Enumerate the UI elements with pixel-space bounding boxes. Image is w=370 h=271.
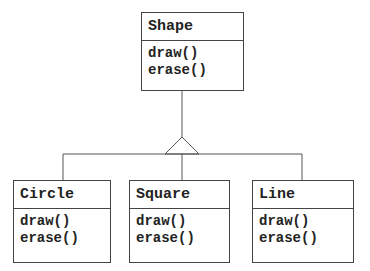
class-square: Square draw() erase()	[129, 180, 230, 263]
class-name: Square	[130, 181, 229, 209]
operation: draw()	[20, 213, 110, 230]
class-name: Shape	[142, 13, 243, 41]
generalization-triangle-icon	[165, 137, 199, 154]
operation: erase()	[20, 230, 110, 247]
operation: draw()	[259, 213, 353, 230]
uml-diagram: Shape draw() erase() Circle draw() erase…	[0, 0, 370, 271]
class-shape: Shape draw() erase()	[141, 12, 244, 91]
class-operations: draw() erase()	[253, 209, 353, 247]
operation: draw()	[148, 45, 243, 62]
class-operations: draw() erase()	[14, 209, 110, 247]
class-name: Circle	[14, 181, 110, 209]
class-line: Line draw() erase()	[252, 180, 354, 263]
operation: erase()	[136, 230, 229, 247]
class-circle: Circle draw() erase()	[13, 180, 111, 263]
operation: erase()	[259, 230, 353, 247]
class-operations: draw() erase()	[142, 41, 243, 79]
operation: erase()	[148, 62, 243, 79]
class-operations: draw() erase()	[130, 209, 229, 247]
operation: draw()	[136, 213, 229, 230]
class-name: Line	[253, 181, 353, 209]
